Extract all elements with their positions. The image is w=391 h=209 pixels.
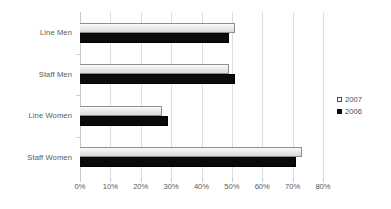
category-label: Staff Men bbox=[0, 70, 72, 79]
plot-area bbox=[80, 12, 323, 178]
category-label: Line Men bbox=[0, 28, 72, 37]
value-axis-tick-label: 0% bbox=[75, 182, 86, 192]
value-axis-tick-label: 60% bbox=[255, 182, 270, 192]
value-axis-tick-label: 70% bbox=[285, 182, 300, 192]
bar-2007-staff-women bbox=[80, 147, 302, 157]
bar-chart: Line MenStaff MenLine WomenStaff Women 0… bbox=[0, 0, 391, 209]
value-axis-tick-label: 80% bbox=[315, 182, 330, 192]
bar-2006-staff-men bbox=[80, 74, 235, 84]
legend-item-2006[interactable]: 2006 bbox=[337, 105, 389, 117]
gridline bbox=[323, 12, 324, 178]
bar-2006-line-women bbox=[80, 116, 168, 126]
value-axis-tick-label: 40% bbox=[194, 182, 209, 192]
category-label: Line Women bbox=[0, 111, 72, 120]
bar-2007-line-men bbox=[80, 23, 235, 33]
legend-label: 2007 bbox=[345, 95, 362, 104]
category-axis-tick bbox=[76, 95, 80, 96]
legend-label: 2006 bbox=[345, 107, 362, 116]
legend-swatch-filled-square-icon bbox=[337, 109, 342, 114]
value-axis-tick-label: 20% bbox=[133, 182, 148, 192]
legend-swatch-open-square-icon bbox=[337, 97, 342, 102]
value-axis-tick-labels: 0%10%20%30%40%50%60%70%80% bbox=[80, 182, 323, 196]
value-axis-tick-label: 50% bbox=[224, 182, 239, 192]
category-axis-tick bbox=[76, 137, 80, 138]
bar-2006-staff-women bbox=[80, 157, 296, 167]
chart-legend: 2007 2006 bbox=[337, 93, 389, 117]
value-axis-tick-label: 30% bbox=[164, 182, 179, 192]
legend-item-2007[interactable]: 2007 bbox=[337, 93, 389, 105]
value-axis-tick-label: 10% bbox=[103, 182, 118, 192]
category-label: Staff Women bbox=[0, 153, 72, 162]
bar-2006-line-men bbox=[80, 33, 229, 43]
bar-2007-staff-men bbox=[80, 64, 229, 74]
category-axis-tick bbox=[76, 54, 80, 55]
category-axis-labels: Line MenStaff MenLine WomenStaff Women bbox=[0, 12, 76, 178]
bar-2007-line-women bbox=[80, 106, 162, 116]
